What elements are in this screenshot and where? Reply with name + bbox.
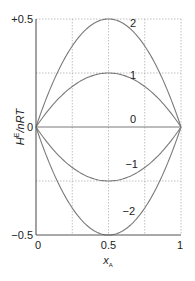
curve-labels: 210−1−2 bbox=[123, 17, 138, 217]
curve-label: 1 bbox=[130, 69, 136, 81]
x-tick-label: 1 bbox=[177, 239, 183, 251]
curve-label: −1 bbox=[125, 158, 138, 170]
x-tick-label: 0 bbox=[35, 239, 41, 251]
y-axis-label: HE/nRT bbox=[13, 108, 26, 146]
x-tick-labels: 00.51 bbox=[35, 239, 183, 251]
y-tick-label: +0.5 bbox=[11, 13, 33, 25]
curve-label: −2 bbox=[123, 205, 136, 217]
curve-label: 0 bbox=[130, 113, 136, 125]
x-tick-label: 0.5 bbox=[101, 239, 116, 251]
x-axis-label: xA bbox=[102, 254, 113, 268]
y-tick-label: −0.5 bbox=[11, 229, 33, 241]
curve-label: 2 bbox=[130, 17, 136, 29]
y-tick-label: 0 bbox=[27, 121, 33, 133]
excess-enthalpy-chart: +0.50−0.5 00.51 210−1−2 HE/nRT xA bbox=[0, 0, 195, 281]
